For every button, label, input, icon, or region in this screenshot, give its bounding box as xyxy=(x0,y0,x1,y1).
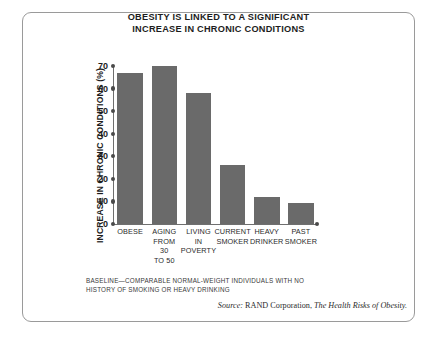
y-axis-tick-mark xyxy=(111,86,115,90)
x-axis-category-labels: OBESEAGINGFROM30TO 50LIVINGINPOVERTYCURR… xyxy=(113,227,318,275)
y-axis-tick-mark xyxy=(111,132,115,136)
y-axis-tick-label: 20 xyxy=(98,174,108,184)
category-label-line: POVERTY xyxy=(178,246,218,256)
x-axis-end-marker xyxy=(315,222,319,226)
bar xyxy=(220,165,246,224)
footnote-line-2: HISTORY OF SMOKING OR HEAVY DRINKING xyxy=(86,285,304,294)
source-credit: Source: RAND Corporation, The Health Ris… xyxy=(218,301,407,310)
y-axis-tick-mark xyxy=(111,199,115,203)
category-label-line: TO 50 xyxy=(144,256,184,266)
y-axis-tick-mark xyxy=(111,109,115,113)
chart-title-line-1: OBESITY IS LINKED TO A SIGNIFICANT xyxy=(22,12,415,24)
source-publication: The Health Risks of Obesity. xyxy=(314,301,407,310)
y-axis-tick-label: 40 xyxy=(98,129,108,139)
bar xyxy=(152,66,178,224)
y-axis-tick-label: 10 xyxy=(98,196,108,206)
y-axis-tick-label: 0 xyxy=(103,219,108,229)
bar xyxy=(186,93,212,224)
source-organization: RAND Corporation, xyxy=(243,301,314,310)
y-axis-tick-label: 30 xyxy=(98,151,108,161)
bar xyxy=(254,197,280,224)
source-label: Source: xyxy=(218,301,243,310)
x-axis-category-label: PASTSMOKER xyxy=(281,227,321,246)
y-axis-label: INCREASE IN CHRONIC CONDITIONS (%) xyxy=(95,53,105,243)
y-axis-tick-mark xyxy=(111,177,115,181)
plot-area: 010203040506070 xyxy=(113,66,318,224)
y-axis-tick-mark xyxy=(111,154,115,158)
chart-title-line-2: INCREASE IN CHRONIC CONDITIONS xyxy=(22,24,415,36)
category-label-line: SMOKER xyxy=(281,237,321,247)
bar xyxy=(288,203,314,224)
y-axis-tick-label: 70 xyxy=(98,61,108,71)
chart-footnote: BASELINE—COMPARABLE NORMAL-WEIGHT INDIVI… xyxy=(86,276,304,295)
footnote-line-1: BASELINE—COMPARABLE NORMAL-WEIGHT INDIVI… xyxy=(86,276,304,285)
y-axis-tick-label: 50 xyxy=(98,106,108,116)
y-axis-tick-label: 60 xyxy=(98,84,108,94)
bar xyxy=(117,73,143,224)
category-label-line: PAST xyxy=(281,227,321,237)
x-axis-line xyxy=(113,224,318,225)
chart-title: OBESITY IS LINKED TO A SIGNIFICANT INCRE… xyxy=(22,12,415,35)
y-axis-tick-mark xyxy=(111,64,115,68)
